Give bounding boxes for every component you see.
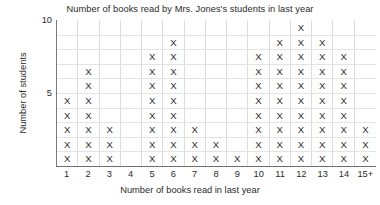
plot-cell: X <box>333 78 354 93</box>
plot-cell: X <box>78 108 99 123</box>
data-mark: X <box>362 154 368 164</box>
x-axis-label: Number of books read in last year <box>0 185 380 195</box>
plot-cell: X <box>355 151 376 166</box>
data-mark: X <box>277 37 283 47</box>
plot-cell <box>355 78 376 93</box>
plot-cell <box>185 49 206 64</box>
plot-cell <box>185 35 206 50</box>
plot-cell <box>248 35 269 50</box>
data-mark: X <box>85 96 91 106</box>
plot-cell: X <box>291 108 312 123</box>
x-axis-ticks: 123456789101112131415+ <box>56 169 376 179</box>
x-axis-tick-7: 7 <box>184 169 205 179</box>
data-mark: X <box>149 66 155 76</box>
plot-cell <box>142 20 163 35</box>
plot-cell: X <box>142 137 163 152</box>
data-mark: X <box>64 96 70 106</box>
plot-cell <box>227 64 248 79</box>
data-mark: X <box>298 37 304 47</box>
data-mark: X <box>277 81 283 91</box>
plot-cell <box>270 20 291 35</box>
data-mark: X <box>277 110 283 120</box>
plot-cell <box>355 49 376 64</box>
plot-cell: X <box>248 64 269 79</box>
plot-cell <box>100 49 121 64</box>
plot-cell <box>185 93 206 108</box>
plot-cell: X <box>227 151 248 166</box>
y-axis-tick-10: 10 <box>36 15 52 25</box>
data-mark: X <box>255 125 261 135</box>
plot-cell: X <box>100 151 121 166</box>
data-mark: X <box>213 154 219 164</box>
plot-cell <box>355 93 376 108</box>
plot-cell: X <box>100 122 121 137</box>
data-mark: X <box>362 139 368 149</box>
plot-cell <box>227 49 248 64</box>
data-mark: X <box>149 52 155 62</box>
x-axis-tick-13: 13 <box>312 169 333 179</box>
plot-cell <box>100 35 121 50</box>
data-mark: X <box>255 81 261 91</box>
plot-cell: X <box>163 49 184 64</box>
x-axis-tick-14: 14 <box>333 169 354 179</box>
data-mark: X <box>170 96 176 106</box>
data-mark: X <box>298 52 304 62</box>
plot-cell: X <box>270 122 291 137</box>
plot-cell <box>121 93 142 108</box>
plot-cell: X <box>312 108 333 123</box>
data-mark: X <box>149 125 155 135</box>
plot-cell <box>185 108 206 123</box>
plot-cell <box>57 20 78 35</box>
data-mark: X <box>298 81 304 91</box>
plot-cell <box>100 93 121 108</box>
plot-cell: X <box>163 35 184 50</box>
plot-cell: X <box>270 78 291 93</box>
plot-cell: X <box>333 49 354 64</box>
plot-cell: X <box>57 137 78 152</box>
data-mark: X <box>255 52 261 62</box>
plot-cell: X <box>248 49 269 64</box>
data-mark: X <box>277 154 283 164</box>
data-mark: X <box>319 81 325 91</box>
data-mark: X <box>319 37 325 47</box>
plot-cell: X <box>185 137 206 152</box>
plot-cell: X <box>291 78 312 93</box>
plot-cell: X <box>142 78 163 93</box>
data-mark: X <box>277 52 283 62</box>
plot-cell: X <box>355 122 376 137</box>
plot-cell: X <box>312 151 333 166</box>
data-mark: X <box>277 66 283 76</box>
data-mark: X <box>106 125 112 135</box>
plot-cell <box>78 49 99 64</box>
plot-cell <box>355 35 376 50</box>
x-axis-tick-5: 5 <box>141 169 162 179</box>
data-mark: X <box>319 66 325 76</box>
data-mark: X <box>64 139 70 149</box>
plot-cell: X <box>312 78 333 93</box>
data-mark: X <box>340 66 346 76</box>
plot-cell: X <box>248 108 269 123</box>
plot-cell <box>333 20 354 35</box>
plot-cell: X <box>206 137 227 152</box>
data-mark: X <box>255 96 261 106</box>
data-mark: X <box>170 125 176 135</box>
plot-cell <box>227 137 248 152</box>
plot-cell: X <box>291 49 312 64</box>
plot-cell <box>185 78 206 93</box>
plot-cell <box>227 108 248 123</box>
x-axis-tick-6: 6 <box>163 169 184 179</box>
data-mark: X <box>170 37 176 47</box>
plot-cell: X <box>57 151 78 166</box>
plot-cell: X <box>100 137 121 152</box>
plot-cell <box>227 20 248 35</box>
plot-cell: X <box>248 151 269 166</box>
data-mark: X <box>298 139 304 149</box>
y-axis-tick-5: 5 <box>36 88 52 98</box>
plot-cell: X <box>333 93 354 108</box>
data-mark: X <box>319 110 325 120</box>
plot-cell: X <box>291 137 312 152</box>
data-mark: X <box>319 154 325 164</box>
data-mark: X <box>213 139 219 149</box>
plot-cell <box>100 78 121 93</box>
data-mark: X <box>64 154 70 164</box>
